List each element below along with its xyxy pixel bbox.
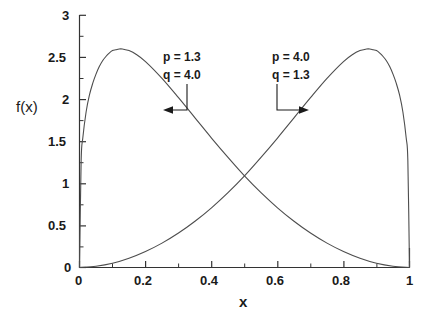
x-tick-label-1: 1 [406, 274, 413, 287]
curve-beta-4_0-1_3 [80, 49, 410, 268]
y-tick-label-1_5: 1.5 [48, 135, 66, 148]
y-tick-label-0: 0 [64, 261, 71, 274]
right-annotation-arrow [277, 84, 309, 114]
y-axis-label: f(x) [16, 99, 38, 114]
curve-beta-1_3-4_0 [80, 49, 410, 268]
x-tick-label-0_8: 0.8 [332, 274, 350, 287]
x-tick-label-0: 0 [75, 274, 82, 287]
axes-frame [80, 15, 411, 268]
x-tick-label-0_6: 0.6 [266, 274, 284, 287]
y-tick-label-3: 3 [62, 9, 69, 22]
beta-distribution-chart: 3 2.5 2 1.5 1 0.5 0 0 0.2 0.4 0.6 0.8 1 … [0, 0, 429, 319]
y-tick-label-0_5: 0.5 [48, 219, 66, 232]
y-tick-label-2_5: 2.5 [48, 51, 66, 64]
right-annotation-line-2: q = 1.3 [272, 69, 310, 81]
left-annotation-arrow [163, 84, 187, 114]
x-axis-label: x [239, 294, 247, 309]
x-tick-label-0_4: 0.4 [200, 274, 218, 287]
left-annotation-line-1: p = 1.3 [163, 51, 201, 63]
x-tick-label-0_2: 0.2 [134, 274, 152, 287]
y-tick-label-1: 1 [62, 177, 69, 190]
right-annotation-line-1: p = 4.0 [272, 51, 310, 63]
left-annotation-line-2: q = 4.0 [163, 69, 201, 81]
y-tick-label-2: 2 [62, 93, 69, 106]
